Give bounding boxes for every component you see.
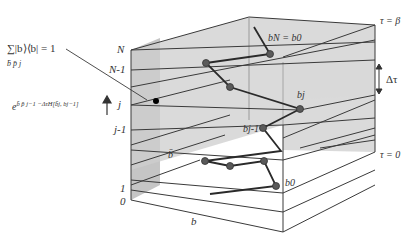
path-dot-b0 — [273, 183, 280, 190]
path-dot-bN — [267, 51, 274, 58]
propagator-exponent: b̄ p̄ j−1 −ΔτH[b̄j, bj−1] — [16, 100, 78, 107]
slice-label-1: 1 — [120, 183, 126, 194]
label-bj: bj — [297, 90, 305, 100]
tau-beta-label: τ = β — [380, 16, 400, 26]
path-dot — [227, 84, 234, 91]
propagator-formula: eb̄ p̄ j−1 −ΔτH[b̄j, bj−1] — [12, 101, 79, 112]
path-dot — [261, 158, 268, 165]
path-dot — [202, 158, 209, 165]
slice-label-0: 0 — [120, 196, 126, 207]
slice-label-N: N — [117, 44, 124, 55]
completeness-relation: ∑|b⟩⟨b| = 1 — [7, 43, 55, 54]
label-b0: b0 — [285, 178, 295, 188]
delta-tau-label: Δτ — [386, 74, 398, 85]
slice-label-j: j — [118, 99, 121, 110]
label-bbar: b̄ — [168, 150, 173, 160]
axis-label-b: b — [191, 216, 197, 227]
path-integral-diagram — [0, 0, 412, 237]
propagator-arrow — [103, 96, 111, 115]
tau-zero-label: τ = 0 — [380, 150, 400, 160]
path-dot — [227, 163, 234, 170]
slice-label-j-1: j-1 — [114, 124, 126, 135]
label-bN-equals-b0: bN = b0 — [268, 33, 301, 43]
completeness-dot — [153, 98, 159, 104]
path-dot-bj — [297, 106, 304, 113]
delta-tau-arrow — [376, 64, 382, 94]
slice-label-N-1: N-1 — [109, 64, 126, 75]
label-bj-1: bj-1 — [243, 124, 259, 134]
completeness-sum-index: b̄ p̄ j — [7, 60, 21, 68]
path-dot-bj-1 — [260, 125, 267, 132]
path-dot — [203, 60, 210, 67]
